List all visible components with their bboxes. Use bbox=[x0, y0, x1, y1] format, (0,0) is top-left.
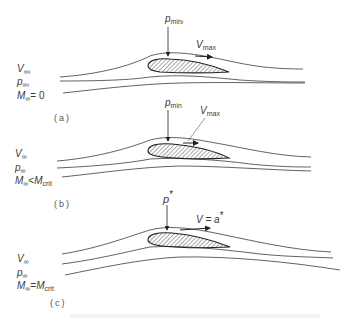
panel-caption-a: (a) bbox=[54, 113, 71, 123]
freestream-pressure-label: p∞ bbox=[17, 268, 28, 279]
freestream-pressure-label: p∞i bbox=[17, 77, 29, 88]
velocity-leader bbox=[188, 118, 205, 141]
streamline-lower bbox=[63, 83, 305, 93]
streamline-middle bbox=[57, 158, 311, 168]
airfoil bbox=[148, 59, 229, 73]
velocity-arrow bbox=[195, 56, 212, 57]
velocity-max-label: Vmax bbox=[200, 106, 220, 117]
freestream-pressure-label: p∞ bbox=[15, 163, 26, 174]
streamline-lower bbox=[62, 166, 311, 177]
panel-caption-c: (c) bbox=[50, 298, 67, 308]
freestream-velocity-label: V∞ bbox=[17, 254, 29, 265]
freestream-mach-label: M∞<Mcrit bbox=[15, 176, 52, 187]
streamline-lower bbox=[65, 257, 340, 275]
streamline-middle bbox=[62, 246, 333, 264]
panel-b bbox=[57, 110, 311, 177]
airfoil bbox=[148, 233, 230, 248]
panel-caption-b: (b) bbox=[54, 199, 71, 209]
freestream-mach-label: M∞= 0 bbox=[17, 91, 45, 102]
freestream-velocity-label: V∞i bbox=[17, 64, 30, 75]
panel-a bbox=[60, 27, 305, 93]
diagram-graphics bbox=[0, 0, 357, 325]
freestream-velocity-label: V∞ bbox=[15, 149, 27, 160]
pressure-min-label: pmini bbox=[165, 14, 183, 25]
pressure-min-label: pmin bbox=[165, 98, 182, 109]
velocity-max-label: Vmax bbox=[196, 40, 216, 51]
critical-pressure-label: p* bbox=[163, 190, 173, 205]
freestream-mach-label: M∞=Mcrit bbox=[17, 281, 54, 292]
sonic-velocity-label: V = a* bbox=[196, 211, 224, 225]
airfoil-critical-mach-figure: pmini Vmax V∞i p∞i M∞= 0 (a) pmin Vmax V… bbox=[0, 0, 357, 325]
streamline-middle bbox=[60, 76, 305, 82]
airfoil bbox=[148, 144, 229, 159]
page-bleed-through bbox=[70, 314, 320, 318]
